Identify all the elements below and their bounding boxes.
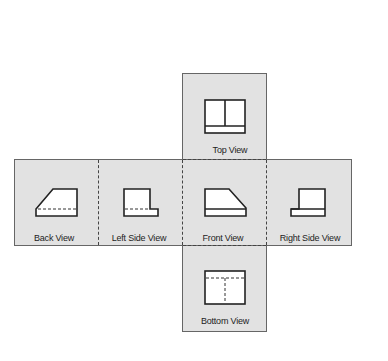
back-view-drawing bbox=[35, 188, 79, 218]
front-view-label: Front View bbox=[181, 233, 265, 243]
front-view-drawing bbox=[204, 188, 248, 218]
fold-line-front-bottom bbox=[183, 245, 266, 246]
bottom-view-drawing bbox=[204, 270, 246, 306]
fold-line-front-right bbox=[266, 160, 267, 245]
top-view-label: Top View bbox=[188, 145, 272, 155]
top-view-drawing bbox=[204, 99, 246, 135]
left-side-view-drawing bbox=[123, 188, 161, 218]
right-side-view-drawing bbox=[290, 188, 328, 218]
fold-line-top-front bbox=[183, 159, 266, 160]
back-view-label: Back View bbox=[12, 233, 96, 243]
left-side-view-label: Left Side View bbox=[97, 233, 181, 243]
bottom-view-label: Bottom View bbox=[183, 316, 267, 326]
right-side-view-label: Right Side View bbox=[268, 233, 352, 243]
